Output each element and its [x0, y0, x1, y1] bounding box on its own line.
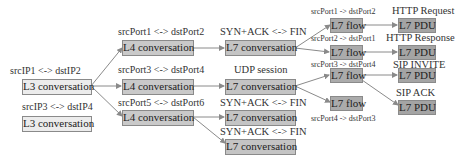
l3-conversation-box-1: L3 conversation	[22, 79, 92, 95]
l7-pdu-box-2: L7 PDU	[398, 45, 436, 60]
l4-conversation-box-1: L4 conversation	[122, 40, 194, 56]
l7-conversation-caption-2: UDP session	[234, 64, 288, 76]
l7-pdu-box-1: L7 PDU	[398, 18, 436, 33]
l3-caption-1: srcIP1 <-> dstIP2	[10, 65, 81, 77]
l7-conversation-box-1: L7 conversation	[225, 40, 296, 56]
l3-caption-2: srcIP3 <-> dstIP4	[22, 101, 93, 113]
l7-flow-caption-1: srcPort1 -> dstPort2	[311, 7, 376, 17]
l4-conversation-box-2: L4 conversation	[122, 79, 194, 95]
l4-caption-3: srcPort5 <-> dstPort6	[118, 97, 204, 109]
l7-conversation-box-4: L7 conversation	[225, 139, 296, 155]
pdu-caption-2: HTTP Response	[386, 32, 455, 44]
l7-conversation-caption-4: SYN+ACK <-> FIN	[220, 126, 307, 138]
l7-conversation-caption-1: SYN+ACK <-> FIN	[220, 26, 307, 38]
l4-caption-1: srcPort1 <-> dstPort2	[118, 26, 204, 38]
l7-conversation-box-2: L7 conversation	[225, 79, 296, 95]
pdu-caption-1: HTTP Request	[392, 5, 454, 17]
l7-flow-caption-4: srcPort4 -> dstPort3	[311, 114, 376, 124]
l3-conversation-box-2: L3 conversation	[22, 116, 92, 132]
l7-flow-caption-2: srcPort2 -> dstPort1	[311, 34, 376, 44]
l7-flow-box-2: L7 flow	[330, 45, 363, 60]
l7-flow-box-4: L7 flow	[330, 96, 363, 111]
l7-pdu-box-3: L7 PDU	[398, 68, 436, 83]
l7-pdu-box-4: L7 PDU	[398, 100, 436, 115]
pdu-caption-4: SIP ACK	[396, 87, 435, 99]
l7-conversation-box-3: L7 conversation	[225, 110, 296, 126]
l4-conversation-box-3: L4 conversation	[122, 110, 194, 126]
l4-caption-2: srcPort3 <-> dstPort4	[118, 64, 204, 76]
l7-flow-box-1: L7 flow	[330, 18, 363, 33]
l7-flow-box-3: L7 flow	[330, 68, 363, 83]
l7-conversation-caption-3: SYN+ACK <-> FIN	[220, 97, 307, 109]
